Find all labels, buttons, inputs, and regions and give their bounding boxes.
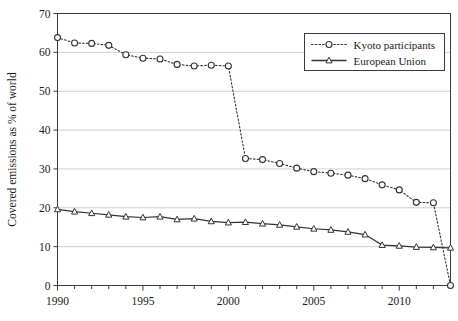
x-tick-label-2010: 2010 (388, 295, 411, 307)
x-tick-label-2005: 2005 (302, 295, 325, 307)
y-tick-label-50: 50 (39, 85, 51, 97)
data-point (345, 172, 351, 178)
data-point (157, 56, 163, 62)
data-point (430, 200, 436, 206)
y-tick-label-60: 60 (39, 46, 51, 58)
emissions-line-chart: 19901995200020052010 010203040506070 Cov… (0, 0, 458, 321)
y-tick-label-10: 10 (39, 241, 51, 253)
data-point (191, 63, 197, 69)
data-point (311, 169, 317, 175)
y-axis-title: Covered emissions as % of world (6, 72, 18, 227)
legend-marker-circle-icon (326, 42, 332, 48)
data-point (89, 40, 95, 46)
data-point (379, 182, 385, 188)
data-point (362, 176, 368, 182)
legend-label: European Union (354, 55, 427, 67)
data-point (260, 157, 266, 163)
y-tick-label-20: 20 (39, 202, 51, 214)
x-tick-label-2000: 2000 (217, 295, 240, 307)
y-tick-label-30: 30 (39, 163, 51, 175)
data-point (106, 42, 112, 48)
data-point (72, 40, 78, 46)
data-point (242, 155, 248, 161)
data-point (277, 160, 283, 166)
y-tick-label-40: 40 (39, 124, 51, 136)
chart-container: 19901995200020052010 010203040506070 Cov… (0, 0, 458, 321)
data-point (294, 165, 300, 171)
data-point (448, 283, 454, 289)
x-tick-label-1990: 1990 (46, 295, 69, 307)
y-tick-label-0: 0 (45, 280, 51, 292)
data-point (55, 35, 61, 41)
data-point (328, 170, 334, 176)
data-point (225, 63, 231, 69)
data-point (174, 61, 180, 67)
y-axis-title-text: Covered emissions as % of world (6, 72, 18, 227)
x-tick-label-1995: 1995 (131, 295, 154, 307)
data-point (208, 62, 214, 68)
y-tick-label-70: 70 (39, 8, 51, 20)
chart-legend[interactable]: Kyoto participantsEuropean Union (305, 34, 445, 71)
data-point (396, 187, 402, 193)
data-point (413, 199, 419, 205)
data-point (123, 52, 129, 58)
legend-label: Kyoto participants (354, 39, 436, 51)
data-point (140, 55, 146, 61)
